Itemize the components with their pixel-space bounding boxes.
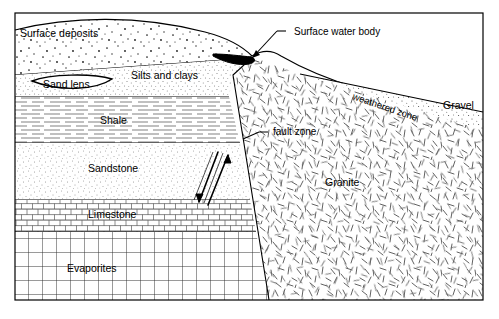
label-evaporites: Evaporites xyxy=(67,262,117,274)
label-surface-water-body: Surface water body xyxy=(294,26,380,37)
label-limestone: Limestone xyxy=(88,208,137,220)
unit-evaporites xyxy=(10,228,275,304)
label-sand-lens: Sand lens xyxy=(43,78,90,90)
label-shale: Shale xyxy=(100,114,127,126)
cross-section-canvas: Surface deposits Silts and clays Sand le… xyxy=(0,0,499,319)
unit-shale xyxy=(10,93,250,148)
label-fault-zone: fault zone xyxy=(273,126,317,137)
label-granite: Granite xyxy=(325,176,360,188)
label-sandstone: Sandstone xyxy=(88,162,138,174)
evaporites-fill xyxy=(10,228,275,304)
geologic-cross-section-figure: Surface deposits Silts and clays Sand le… xyxy=(0,0,499,319)
label-surface-deposits: Surface deposits xyxy=(20,27,98,39)
label-silts-and-clays: Silts and clays xyxy=(131,69,198,81)
label-gravel: Gravel xyxy=(443,99,474,111)
shale-fill xyxy=(10,93,250,148)
